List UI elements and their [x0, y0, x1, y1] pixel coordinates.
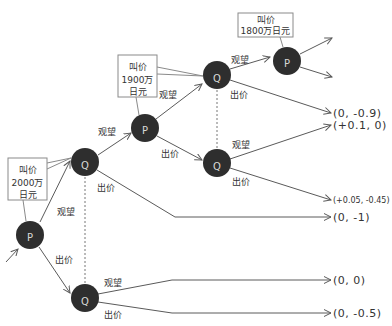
edge-label-p2-bid: 出价	[161, 148, 179, 159]
node-p2: P	[131, 114, 159, 142]
edge-p3-up	[300, 38, 332, 54]
payoff-6: (0, -0.5)	[333, 307, 382, 320]
edge-label-p2-wait: 观望	[159, 89, 177, 100]
callout-line: 日元	[19, 190, 37, 200]
node-label: P	[284, 58, 290, 69]
callout-line: 1800万日元	[241, 26, 291, 36]
callout-tail	[136, 97, 139, 115]
callout-bid-1800: 叫价 1800万日元	[238, 13, 293, 47]
callout-line: 1900万	[122, 75, 154, 85]
edge-label-q4-wait: 观望	[232, 139, 250, 150]
edge-q2-payoff-bid	[98, 302, 331, 313]
edge-label-q3-bid: 出价	[230, 89, 248, 100]
edge-q2-payoff-wait	[98, 280, 331, 294]
node-label: Q	[81, 160, 89, 171]
node-label: P	[142, 125, 148, 136]
node-q1: Q	[71, 148, 99, 176]
edge-q1-payoff	[97, 170, 331, 217]
callout-line: 叫价	[257, 15, 275, 25]
edge-p1-q2	[39, 247, 70, 293]
node-q4: Q	[203, 149, 231, 177]
payoff-5: (0, 0)	[333, 274, 366, 287]
callout-line: 叫价	[129, 62, 147, 72]
payoff-2: (+0.1, 0)	[333, 119, 387, 132]
node-p1: P	[16, 221, 44, 249]
node-q3: Q	[203, 61, 231, 89]
node-p3: P	[273, 47, 301, 75]
edge-p3-down	[300, 67, 332, 77]
callout-line: 日元	[129, 87, 147, 97]
callout-line: 叫价	[19, 165, 37, 175]
edge-label-q2-wait: 观望	[104, 277, 122, 288]
callout-pointer	[157, 67, 203, 76]
callout-tail	[280, 37, 283, 47]
edge-label-q4-bid: 出价	[232, 176, 250, 187]
edge-label-q3-wait: 观望	[231, 54, 249, 65]
node-label: Q	[213, 73, 221, 84]
node-label: Q	[81, 296, 89, 307]
edge-label-q2-bid: 出价	[104, 309, 122, 320]
callout-bid-1900: 叫价 1900万 日元	[118, 55, 203, 115]
payoff-4: (0, -1)	[333, 211, 370, 224]
node-label: Q	[213, 161, 221, 172]
node-q2: Q	[71, 284, 99, 312]
entry-arrow	[6, 249, 18, 262]
callout-tail	[23, 200, 26, 221]
game-tree-diagram: 叫价 2000万 日元 叫价 1900万 日元 叫价 1800万日元 P Q Q…	[0, 0, 392, 326]
node-label: P	[27, 232, 33, 243]
callout-line: 2000万	[12, 178, 44, 188]
edge-label-p1-bid: 出价	[55, 254, 73, 265]
edge-label-p1-wait: 观望	[57, 206, 75, 217]
edge-label-q1-bid: 出价	[97, 182, 115, 193]
edge-label-q1-wait: 观望	[98, 126, 116, 137]
payoff-3: (+0.05, -0.45)	[333, 196, 390, 205]
